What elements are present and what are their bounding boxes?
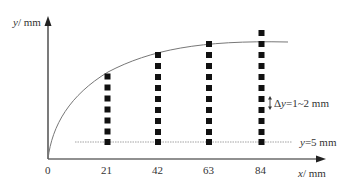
delta-value: =1~2 mm bbox=[286, 97, 329, 109]
spacing-annotation: Δy=1~2 mm bbox=[274, 98, 329, 109]
x-tick-42: 42 bbox=[152, 165, 163, 176]
double-arrow-icon bbox=[268, 96, 272, 110]
x-tick-21: 21 bbox=[101, 165, 112, 176]
ref-value: =5 mm bbox=[305, 136, 337, 148]
y-axis-arrow-icon bbox=[45, 16, 52, 26]
chart-canvas bbox=[0, 0, 352, 185]
point-column-42 bbox=[155, 52, 161, 145]
x-axis-label: x/ mm bbox=[298, 168, 326, 179]
envelope-curve bbox=[48, 42, 288, 159]
x-axis-arrow-icon bbox=[316, 156, 326, 163]
x-tick-63: 63 bbox=[203, 165, 214, 176]
y-axis-label: y/ mm bbox=[13, 17, 41, 28]
x-axis-unit: / mm bbox=[303, 167, 326, 179]
point-column-63 bbox=[206, 41, 212, 145]
point-column-21 bbox=[105, 74, 111, 146]
y-axis-unit: / mm bbox=[18, 16, 41, 28]
x-tick-84: 84 bbox=[255, 165, 266, 176]
point-column-84 bbox=[259, 30, 265, 145]
origin-label: 0 bbox=[45, 165, 51, 176]
reference-line-label: y=5 mm bbox=[300, 137, 336, 148]
